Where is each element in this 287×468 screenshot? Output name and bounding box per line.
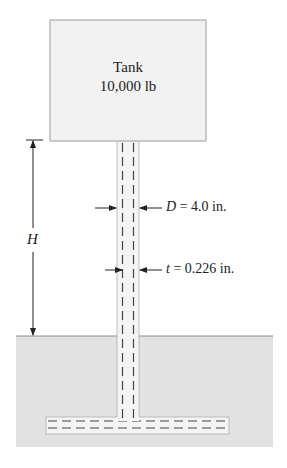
tank-title: Tank [50, 58, 206, 77]
height-symbol: H [27, 231, 38, 247]
diameter-symbol: D [166, 199, 176, 214]
height-label: H [27, 231, 38, 248]
diagram-canvas: Tank 10,000 lb H D = 4.0 in. t = 0.226 i… [0, 0, 287, 468]
diameter-label: D = 4.0 in. [166, 199, 226, 215]
thickness-value: = 0.226 in. [170, 261, 234, 276]
thickness-label: t = 0.226 in. [166, 261, 234, 277]
diameter-value: = 4.0 in. [176, 199, 226, 214]
tank-weight: 10,000 lb [50, 77, 206, 96]
pipe-column [117, 141, 139, 421]
